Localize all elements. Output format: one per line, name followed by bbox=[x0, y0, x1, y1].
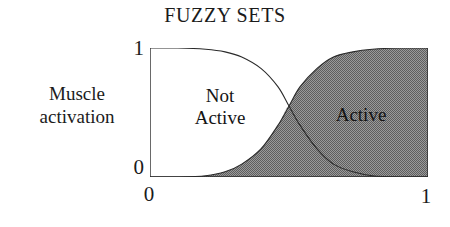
chart-title: FUZZY SETS bbox=[0, 4, 450, 27]
y-axis-label: Muscle activation bbox=[8, 82, 146, 128]
y-axis-label-line1: Muscle bbox=[8, 82, 146, 105]
x-axis-tick-right: 1 bbox=[415, 184, 437, 209]
y-axis-tick-bottom: 0 bbox=[122, 155, 144, 180]
membership-curves-svg bbox=[150, 48, 428, 177]
y-axis-label-line2: activation bbox=[8, 105, 146, 128]
fuzzy-sets-figure: FUZZY SETS Muscle activation 1 0 0 1 bbox=[0, 0, 450, 227]
plot-area: Not Active Active bbox=[150, 48, 428, 177]
x-axis-tick-left: 0 bbox=[138, 182, 160, 207]
y-axis-tick-top: 1 bbox=[122, 36, 144, 61]
